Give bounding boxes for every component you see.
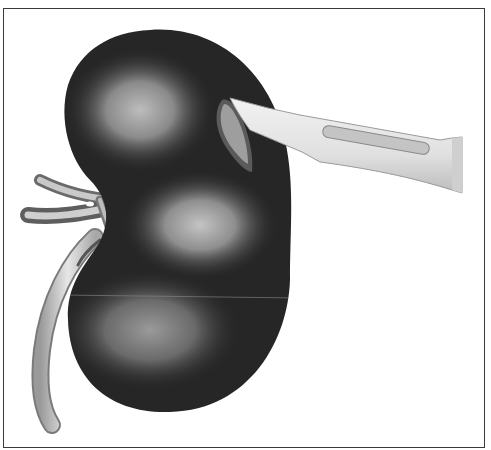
kidney bbox=[60, 30, 300, 412]
kidney-illustration bbox=[0, 0, 491, 450]
